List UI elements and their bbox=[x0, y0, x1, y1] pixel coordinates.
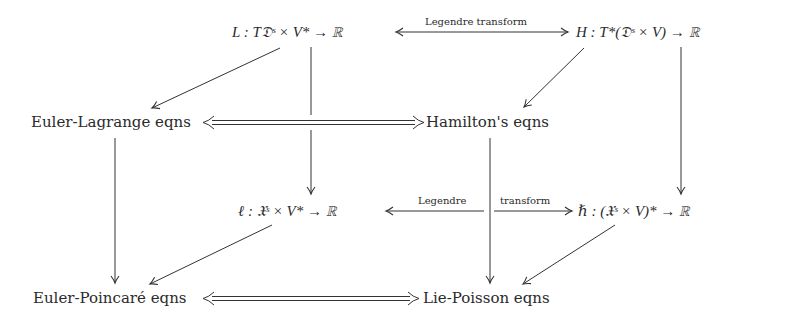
node-euler-poincare: Euler-Poincaré eqns bbox=[33, 289, 187, 307]
arrow-l-to-euler-poincare bbox=[150, 225, 272, 284]
node-reduced-hamiltonian: ℏ : (𝔛ˢ × V)* → ℝ bbox=[578, 202, 690, 220]
commutative-cube-diagram: Legendre transform Legendre transform L … bbox=[0, 0, 792, 322]
double-arrow-euler-lagrange-hamiltons bbox=[203, 116, 424, 129]
node-hamiltonian: H : T*(𝔇ˢ × V) → ℝ bbox=[576, 23, 700, 41]
legendre-transform-label-top: Legendre transform bbox=[425, 16, 527, 28]
diagram-arrows bbox=[0, 0, 792, 322]
node-reduced-lagrangian: ℓ : 𝔛ˢ × V* → ℝ bbox=[238, 202, 337, 220]
double-arrow-euler-poincare-lie-poisson bbox=[203, 292, 419, 305]
arrow-L-to-euler-lagrange bbox=[152, 48, 280, 108]
legendre-label-bottom: Legendre bbox=[418, 195, 466, 207]
arrow-H-to-hamiltons bbox=[524, 48, 584, 107]
node-lie-poisson: Lie-Poisson eqns bbox=[423, 289, 550, 307]
node-euler-lagrange: Euler-Lagrange eqns bbox=[31, 113, 191, 131]
transform-label-bottom: transform bbox=[500, 195, 550, 207]
node-hamiltons: Hamilton's eqns bbox=[426, 113, 549, 131]
node-lagrangian: L : T𝔇ˢ × V* → ℝ bbox=[232, 23, 343, 41]
arrow-hbar-to-lie-poisson bbox=[523, 225, 615, 284]
